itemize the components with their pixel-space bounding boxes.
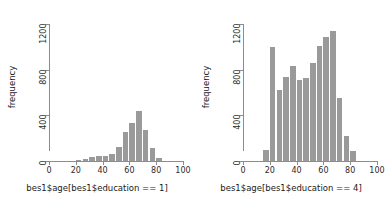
x-axis-tick: [76, 161, 77, 165]
y-axis-label: frequency: [7, 66, 17, 109]
x-axis-tick-label: 60: [124, 166, 134, 175]
histogram-bar: [123, 132, 130, 161]
y-axis-tick-label: 400: [39, 115, 48, 130]
histogram-bar: [337, 98, 344, 161]
histogram-bar: [297, 80, 304, 161]
y-axis-tick-label: 800: [39, 69, 48, 84]
histogram-bar: [96, 156, 103, 161]
histogram-bar: [277, 90, 284, 161]
x-axis-tick-label: 20: [265, 166, 275, 175]
histogram-bar: [350, 151, 357, 161]
y-axis-label-wrap-right: frequency: [200, 22, 212, 152]
x-axis-label: bes1$age[bes1$education == 4]: [194, 183, 388, 193]
x-axis-tick-label: 0: [46, 166, 51, 175]
y-axis-tick-label: 0: [39, 161, 48, 166]
x-axis-tick-label: 20: [71, 166, 81, 175]
histogram-bar: [290, 66, 297, 161]
x-axis-tick: [350, 161, 351, 165]
histogram-bar: [303, 78, 310, 161]
x-axis-tick-label: 80: [151, 166, 161, 175]
figure-root: frequency bes1$age[bes1$education == 1] …: [0, 0, 388, 210]
x-axis-tick: [243, 161, 244, 165]
y-axis-tick-label: 400: [233, 115, 242, 130]
x-axis-tick: [270, 161, 271, 165]
x-axis-tick: [377, 161, 378, 165]
x-axis-tick-label: 100: [369, 166, 384, 175]
bars-container-right: [243, 24, 377, 161]
histogram-bar: [129, 123, 136, 161]
x-axis-tick: [103, 161, 104, 165]
x-axis-line: [49, 161, 183, 162]
histogram-bar: [109, 154, 116, 161]
x-axis-tick-label: 60: [318, 166, 328, 175]
histogram-bar: [330, 31, 337, 161]
histogram-bar: [136, 111, 143, 161]
histogram-bar: [317, 46, 324, 161]
histogram-bar: [283, 77, 290, 161]
histogram-bar: [323, 37, 330, 161]
x-axis-tick-label: 40: [98, 166, 108, 175]
x-axis-tick-label: 40: [292, 166, 302, 175]
x-axis-tick: [323, 161, 324, 165]
histogram-bar: [150, 148, 157, 161]
x-axis-tick-label: 0: [240, 166, 245, 175]
y-axis-label-wrap-left: frequency: [6, 22, 18, 152]
y-axis-tick-label: 800: [233, 69, 242, 84]
histogram-bar: [76, 160, 83, 161]
histogram-bar: [156, 158, 163, 161]
histogram-bar: [116, 147, 123, 161]
histogram-bar: [143, 130, 150, 161]
histogram-bar: [344, 136, 351, 161]
y-axis-label: frequency: [201, 66, 211, 109]
histogram-panel-right: frequency bes1$age[bes1$education == 4] …: [194, 0, 388, 210]
histogram-bar: [89, 157, 96, 161]
x-axis-line: [243, 161, 377, 162]
x-axis-tick: [129, 161, 130, 165]
x-axis-tick: [156, 161, 157, 165]
histogram-bar: [270, 47, 277, 161]
x-axis-tick: [183, 161, 184, 165]
histogram-bar: [310, 63, 317, 161]
y-axis-tick-label: 0: [233, 161, 242, 166]
y-axis-tick-label: 1200: [233, 24, 242, 44]
x-axis-label: bes1$age[bes1$education == 1]: [0, 183, 194, 193]
histogram-panel-left: frequency bes1$age[bes1$education == 1] …: [0, 0, 194, 210]
x-axis-tick-label: 100: [175, 166, 190, 175]
y-axis-tick-label: 1200: [39, 24, 48, 44]
x-axis-tick-label: 80: [345, 166, 355, 175]
histogram-bar: [103, 156, 110, 161]
x-axis-tick: [297, 161, 298, 165]
x-axis-tick: [49, 161, 50, 165]
histogram-bar: [83, 159, 90, 161]
bars-container-left: [49, 24, 183, 161]
histogram-bar: [263, 150, 270, 161]
